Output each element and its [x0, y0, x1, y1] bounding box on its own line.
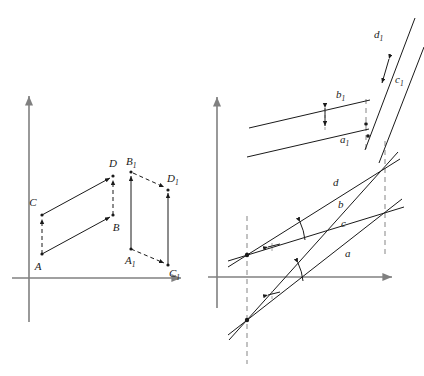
concurrency-point-ab — [245, 318, 249, 322]
label-point-C: C — [29, 196, 37, 208]
label-line-b: b — [338, 198, 344, 210]
label-line-d: d — [333, 176, 339, 188]
label-point-B: B — [113, 221, 120, 233]
point-A1 — [129, 247, 132, 250]
label-line-c: c — [341, 217, 346, 229]
label-point-D: D — [108, 157, 117, 169]
concurrency-point-cd — [245, 253, 249, 257]
geometry-figure: A B C D A1 B1 C1 D1 — [0, 0, 424, 376]
label-line-a: a — [345, 247, 351, 259]
intersection-point-a1 — [364, 122, 368, 126]
point-B — [111, 213, 114, 216]
point-D1 — [166, 188, 169, 191]
point-C — [40, 213, 43, 216]
intersection-point-lower — [366, 134, 370, 138]
label-point-A: A — [34, 260, 42, 272]
point-B1 — [129, 170, 132, 173]
point-A — [40, 252, 43, 255]
figure-background — [0, 0, 424, 376]
point-D — [111, 174, 114, 177]
